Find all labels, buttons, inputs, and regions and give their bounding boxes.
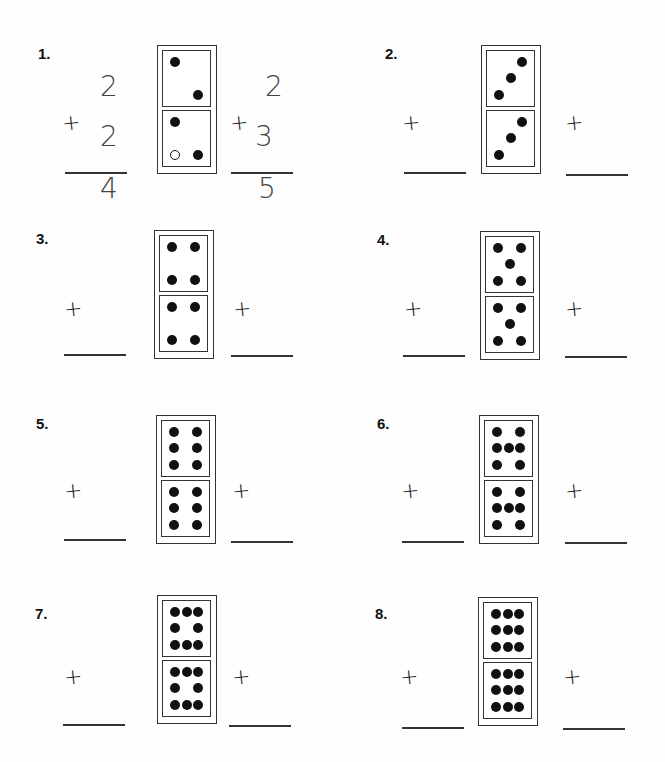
pip-icon <box>193 683 203 693</box>
pip-icon <box>492 487 502 497</box>
plus-sign-left: + <box>61 109 82 136</box>
pip-icon <box>492 503 502 513</box>
pip-icon <box>514 685 524 695</box>
pip-icon <box>516 276 526 286</box>
pip-icon <box>167 275 177 285</box>
answer-line-right[interactable] <box>231 355 293 357</box>
answer-line-right[interactable] <box>229 725 291 727</box>
domino-bottom-half <box>483 662 532 719</box>
pip-icon <box>491 685 501 695</box>
pip-icon <box>169 487 179 497</box>
pip-icon <box>516 243 526 253</box>
domino-bottom-half <box>486 110 535 167</box>
domino-top-half <box>161 420 210 477</box>
answer-line-left[interactable] <box>64 539 126 541</box>
problem-number: 7. <box>35 605 48 622</box>
pip-icon <box>494 150 504 160</box>
problem-number: 1. <box>38 45 51 62</box>
pip-icon <box>170 57 180 67</box>
domino-top-half <box>162 600 211 657</box>
pip-icon <box>515 460 525 470</box>
pip-icon <box>506 73 516 83</box>
answer-line-right[interactable] <box>565 542 627 544</box>
pip-icon <box>169 520 179 530</box>
pip-icon <box>493 243 503 253</box>
answer-line-right[interactable] <box>563 728 625 730</box>
domino-top-half <box>483 602 532 659</box>
pip-icon <box>492 443 502 453</box>
answer-line-left[interactable] <box>402 727 464 729</box>
pip-icon <box>491 669 501 679</box>
pip-icon <box>182 667 192 677</box>
plus-sign-left: + <box>63 663 84 690</box>
answer-line-left[interactable] <box>64 354 126 356</box>
pip-icon <box>190 275 200 285</box>
pip-icon <box>492 427 502 437</box>
open-pip-icon <box>170 150 180 160</box>
domino-bottom-half <box>161 480 210 537</box>
pip-icon <box>190 302 200 312</box>
pip-icon <box>493 276 503 286</box>
pip-icon <box>182 640 192 650</box>
plus-sign-right: + <box>562 663 583 690</box>
pip-icon <box>170 700 180 710</box>
plus-sign-right: + <box>231 663 252 690</box>
pip-icon <box>503 609 513 619</box>
pip-icon <box>193 623 203 633</box>
example-addend-bottom: 3 <box>255 120 273 153</box>
plus-sign-right: + <box>564 295 585 322</box>
domino-top-half <box>159 235 208 292</box>
answer-line-right[interactable] <box>565 356 627 358</box>
answer-line-left[interactable] <box>402 541 464 543</box>
pip-icon <box>492 520 502 530</box>
pip-icon <box>169 503 179 513</box>
pip-icon <box>503 669 513 679</box>
pip-icon <box>505 319 515 329</box>
pip-icon <box>192 520 202 530</box>
pip-icon <box>169 460 179 470</box>
pip-icon <box>505 259 515 269</box>
plus-sign-right: + <box>229 109 250 136</box>
problem-number: 4. <box>377 231 390 248</box>
domino-top-half <box>162 50 211 107</box>
answer-line-left[interactable] <box>63 724 125 726</box>
pip-icon <box>503 625 513 635</box>
pip-icon <box>515 443 525 453</box>
pip-icon <box>504 443 514 453</box>
domino <box>157 45 217 174</box>
pip-icon <box>503 685 513 695</box>
domino <box>479 415 539 544</box>
pip-icon <box>167 335 177 345</box>
domino <box>154 230 214 359</box>
pip-icon <box>515 520 525 530</box>
answer-line-right[interactable] <box>231 541 293 543</box>
pip-icon <box>491 642 501 652</box>
pip-icon <box>192 503 202 513</box>
plus-sign-right: + <box>564 477 585 504</box>
pip-icon <box>170 623 180 633</box>
pip-icon <box>192 443 202 453</box>
pip-icon <box>515 427 525 437</box>
problem-number: 8. <box>375 605 388 622</box>
pip-icon <box>515 487 525 497</box>
answer-line-left[interactable] <box>404 172 466 174</box>
answer-line-right[interactable] <box>566 174 628 176</box>
pip-icon <box>514 625 524 635</box>
domino <box>480 231 540 360</box>
pip-icon <box>193 607 203 617</box>
pip-icon <box>514 669 524 679</box>
problem-number: 6. <box>377 415 390 432</box>
pip-icon <box>514 609 524 619</box>
pip-icon <box>516 303 526 313</box>
pip-icon <box>193 667 203 677</box>
plus-sign-left: + <box>399 663 420 690</box>
plus-sign-right: + <box>232 295 253 322</box>
plus-sign-left: + <box>63 477 84 504</box>
domino-top-half <box>485 236 534 293</box>
answer-line-left[interactable] <box>403 355 465 357</box>
pip-icon <box>170 117 180 127</box>
pip-icon <box>193 640 203 650</box>
example-addend-top: 2 <box>100 70 118 103</box>
pip-icon <box>170 640 180 650</box>
pip-icon <box>503 702 513 712</box>
